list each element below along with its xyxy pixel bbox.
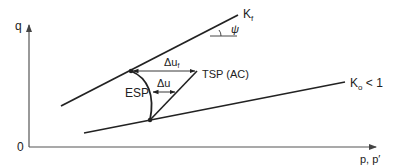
psi-angle-label: ψ (231, 23, 239, 35)
p-axis-label: p, p′ (360, 153, 380, 165)
effective-stress-path: ESP (125, 69, 152, 122)
kf-label: Kf (243, 7, 254, 23)
k0-line-group: Ko < 1 (84, 76, 383, 133)
origin-label: 0 (17, 140, 24, 154)
k0-label: Ko < 1 (350, 76, 383, 92)
angle-arc (219, 30, 221, 36)
k0-line (84, 82, 345, 133)
kf-label-main: K (243, 7, 251, 21)
total-stress-path: TSP (AC) (150, 68, 249, 120)
failure-line-kf: ψ Kf (61, 7, 254, 106)
delta-uf-label-main: Δu (164, 56, 177, 68)
esp-failure-point (129, 69, 133, 73)
delta-u-label: Δu (157, 77, 170, 89)
axes: q p, p′ 0 (15, 19, 380, 165)
q-axis-label: q (15, 19, 22, 33)
k0-label-main: K (350, 76, 358, 90)
delta-uf-label-sub: f (177, 62, 179, 69)
kf-label-sub: f (251, 14, 254, 23)
esp-label: ESP (125, 86, 149, 100)
delta-u-dimension: Δu (153, 77, 175, 92)
k0-label-suffix: < 1 (362, 76, 383, 90)
stress-path-diagram: q p, p′ 0 ψ Kf Ko < 1 ESP TSP (AC) Δuf (0, 0, 402, 165)
tsp-label: TSP (AC) (202, 68, 249, 80)
delta-uf-label: Δuf (164, 56, 179, 69)
